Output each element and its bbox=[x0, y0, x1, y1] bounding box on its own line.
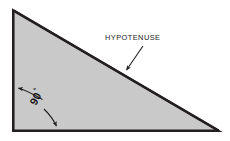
triangle-diagram: HYPOTENUSE 90 ° bbox=[0, 0, 230, 141]
hypotenuse-label: HYPOTENUSE bbox=[105, 33, 160, 42]
diagram-canvas: HYPOTENUSE 90 ° bbox=[0, 0, 230, 141]
hypotenuse-leader-arrow bbox=[127, 46, 144, 70]
